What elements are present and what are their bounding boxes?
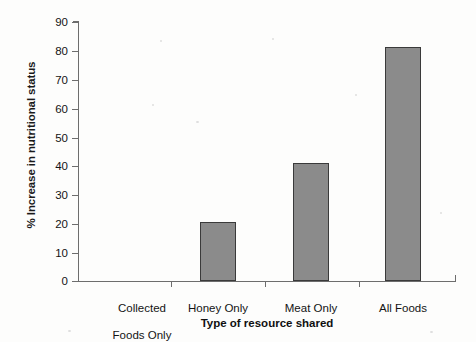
x-tick-1 [171,281,172,287]
y-tick-label-10-wrap: 10 [0,247,68,259]
x-category-label-line2: Foods Only [84,329,200,342]
scan-speck [430,331,433,333]
scan-speck [272,38,274,40]
y-tick-90 [72,22,78,23]
bar-meat-only [293,163,329,281]
y-tick-label-40: 40 [6,160,68,172]
y-tick-20 [72,224,78,225]
scan-speck [196,121,199,123]
y-tick-0 [72,281,78,282]
scan-speck [152,104,154,106]
y-tick-40 [72,166,78,167]
y-tick-label-40-wrap: 40 [0,160,68,172]
y-tick-label-60-wrap: 60 [0,103,68,115]
scan-speck [68,330,71,332]
y-tick-label-0-wrap: 0 [0,275,68,287]
x-tick-2 [265,281,266,287]
y-tick-50 [72,138,78,139]
y-tick-label-90-wrap: 90 [0,16,68,28]
scan-speck [440,212,442,214]
y-tick-label-30-wrap: 30 [0,189,68,201]
x-axis-line [78,281,456,282]
y-tick-label-30: 30 [6,189,68,201]
y-tick-label-90: 90 [6,16,68,28]
y-tick-label-80-wrap: 80 [0,45,68,57]
x-tick-3 [359,281,360,287]
y-tick-80 [72,51,78,52]
y-tick-label-80: 80 [6,45,68,57]
bar-all-foods [385,47,421,281]
y-tick-label-10: 10 [6,247,68,259]
x-category-label-line1: All Foods [345,302,461,316]
y-tick-label-0: 0 [6,275,68,287]
y-tick-10 [72,253,78,254]
y-tick-label-70: 70 [6,74,68,86]
bar-honey-only [200,222,236,281]
y-tick-label-20: 20 [6,218,68,230]
y-tick-label-60: 60 [6,103,68,115]
y-tick-70 [72,80,78,81]
y-tick-label-50: 50 [6,132,68,144]
x-axis-end-tick [455,275,456,282]
scan-speck [355,94,357,96]
bar-chart-figure: % Increase in nutritional status 90 80 7… [0,0,476,342]
y-tick-label-70-wrap: 70 [0,74,68,86]
scan-speck [160,40,162,42]
y-axis-line [78,21,79,282]
y-tick-30 [72,195,78,196]
y-tick-label-50-wrap: 50 [0,132,68,144]
x-axis-title: Type of resource shared [78,317,456,329]
y-tick-60 [72,109,78,110]
y-tick-label-20-wrap: 20 [0,218,68,230]
